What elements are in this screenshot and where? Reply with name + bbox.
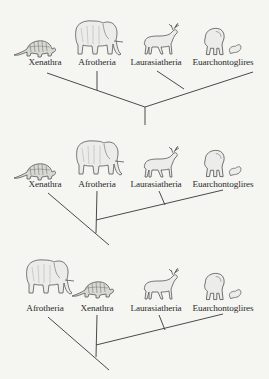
taxon-label: Afrotheria bbox=[26, 303, 63, 313]
taxon-label: Euarchontoglires bbox=[192, 57, 253, 67]
taxon-label: Afrotheria bbox=[78, 57, 115, 67]
taxon-label: Euarchontoglires bbox=[192, 179, 253, 189]
reindeer-icon bbox=[140, 135, 182, 179]
taxon-label: Xenathra bbox=[29, 179, 62, 189]
taxon-label: Afrotheria bbox=[78, 179, 115, 189]
gorilla-and-rodent-icon bbox=[199, 272, 243, 302]
armadillo-icon bbox=[70, 278, 116, 300]
taxon-label: Xenathra bbox=[81, 303, 114, 313]
reindeer-icon bbox=[140, 12, 182, 56]
tree-panel-3: Afrotheria Xenathra Laurasiatheria Euarc… bbox=[0, 250, 269, 379]
tree-panel-1: Xenathra Afrotheria Laurasiatheria Euarc… bbox=[0, 0, 269, 125]
tree-panel-2: Xenathra Afrotheria Laurasiatheria Euarc… bbox=[0, 125, 269, 250]
taxon-label: Laurasiatheria bbox=[130, 179, 181, 189]
elephant-icon bbox=[71, 20, 125, 58]
elephant-icon bbox=[22, 259, 76, 297]
elephant-icon bbox=[72, 140, 126, 178]
taxon-label: Laurasiatheria bbox=[130, 303, 181, 313]
taxon-label: Laurasiatheria bbox=[130, 57, 181, 67]
taxon-label: Euarchontoglires bbox=[192, 303, 253, 313]
armadillo-icon bbox=[12, 37, 58, 59]
gorilla-and-rodent-icon bbox=[199, 27, 243, 57]
taxon-label: Xenathra bbox=[29, 57, 62, 67]
gorilla-and-rodent-icon bbox=[199, 149, 243, 179]
reindeer-icon bbox=[140, 257, 182, 301]
